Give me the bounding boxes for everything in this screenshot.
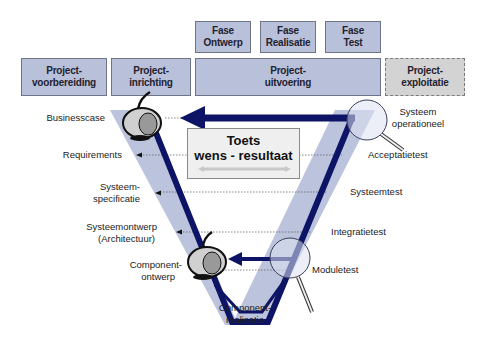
label-systeem-operationeel-2: operationeel — [385, 118, 451, 130]
label-systeem-operationeel-1: Systeem — [388, 106, 448, 118]
toets-subtitle: wens - resultaat — [188, 148, 299, 163]
label-integratietest: Integratietest — [331, 226, 386, 238]
label-systeemspecificatie-1: Systeem- — [70, 181, 140, 193]
toets-box: Toets wens - resultaat — [187, 128, 300, 179]
label-componentontwerp-1: Component- — [110, 259, 182, 271]
label-componentrealisatie-2: realisatie — [215, 314, 275, 326]
label-acceptatietest: Acceptatietest — [368, 149, 428, 161]
label-systeemontwerp-2: (Architectuur) — [70, 233, 155, 245]
toets-title: Toets — [188, 133, 299, 148]
label-requirements: Requirements — [40, 149, 122, 161]
big-arrowhead — [180, 106, 205, 130]
bomb-icon — [123, 92, 161, 141]
label-systeemtest: Systeemtest — [350, 186, 402, 198]
label-systeemontwerp-1: Systeemontwerp — [70, 221, 157, 233]
double-arrow-icon — [198, 166, 291, 172]
label-systeemspecificatie-2: specificatie — [70, 193, 140, 205]
label-businesscase: Businesscase — [30, 112, 105, 124]
label-componentontwerp-2: ontwerp — [110, 271, 175, 283]
label-moduletest: Moduletest — [312, 264, 358, 276]
label-componentrealisatie-1: Component- — [215, 302, 275, 314]
